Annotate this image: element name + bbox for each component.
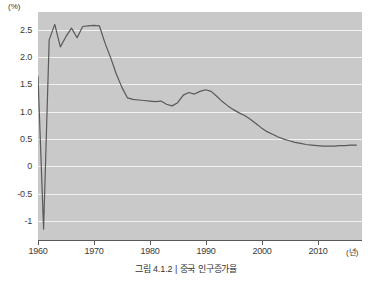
population-growth-line-series bbox=[38, 12, 362, 240]
y-axis-unit-label: (%) bbox=[8, 2, 20, 11]
figure-caption: 그림 4.1.2 | 중국 인구증가율 bbox=[0, 262, 372, 275]
x-tick-label: 1960 bbox=[28, 246, 47, 256]
x-tick-mark bbox=[318, 241, 319, 245]
x-tick-mark bbox=[150, 241, 151, 245]
x-tick-mark bbox=[262, 241, 263, 245]
y-tick-label: 2.5 bbox=[2, 25, 32, 35]
y-tick-label: 0.5 bbox=[2, 134, 32, 144]
x-axis-unit-label: (년) bbox=[346, 246, 358, 257]
y-tick-label: 0 bbox=[2, 161, 32, 171]
y-tick-label: 1.0 bbox=[2, 107, 32, 117]
x-tick-mark bbox=[94, 241, 95, 245]
figure-container: (%) (년) 2.5 2.0 1.5 1.0 0.5 0 -0.5 -1 19… bbox=[0, 0, 372, 282]
x-tick-label: 1980 bbox=[140, 246, 159, 256]
x-axis-line bbox=[38, 240, 362, 241]
x-tick-label: 2010 bbox=[308, 246, 327, 256]
y-tick-label: 2.0 bbox=[2, 52, 32, 62]
x-tick-label: 1990 bbox=[196, 246, 215, 256]
y-tick-label: 1.5 bbox=[2, 79, 32, 89]
x-tick-mark bbox=[38, 241, 39, 245]
x-tick-label: 2000 bbox=[252, 246, 271, 256]
plot-area bbox=[38, 12, 362, 240]
x-tick-mark bbox=[206, 241, 207, 245]
y-tick-label: -0.5 bbox=[2, 189, 32, 199]
x-tick-label: 1970 bbox=[84, 246, 103, 256]
y-tick-label: -1 bbox=[2, 216, 32, 226]
